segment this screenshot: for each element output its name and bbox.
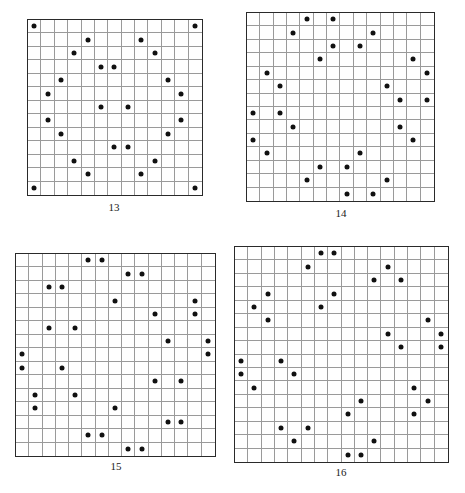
grid-cell <box>149 267 162 280</box>
grid-cell <box>327 94 340 107</box>
grid-cell <box>28 141 41 154</box>
grid-cell <box>314 94 327 107</box>
grid-cell <box>327 134 340 147</box>
grid-cell <box>96 402 109 415</box>
grid-cell <box>288 301 301 314</box>
grid-cell <box>162 47 175 60</box>
grid-cell <box>381 13 394 26</box>
grid-cell <box>381 134 394 147</box>
grid-cell <box>69 443 82 456</box>
grid-cell <box>368 355 381 368</box>
grid-cell <box>247 147 260 160</box>
grid-cell <box>41 47 54 60</box>
grid-cell <box>188 308 201 321</box>
grid-cell <box>381 40 394 53</box>
grid-cell <box>189 168 202 181</box>
grid-cell <box>122 281 135 294</box>
dot-marker <box>319 304 324 309</box>
grid-cell <box>342 435 355 448</box>
grid-cell <box>300 26 313 39</box>
grid-cell <box>82 182 95 195</box>
grid-cell <box>247 67 260 80</box>
grid-cell <box>287 161 300 174</box>
dot-marker <box>72 51 77 56</box>
grid-cell <box>275 301 288 314</box>
grid-cell <box>95 47 108 60</box>
grid-cell <box>175 429 188 442</box>
grid-cell <box>162 33 175 46</box>
grid-cell <box>235 260 248 273</box>
grid-cell <box>354 120 367 133</box>
grid-cell <box>342 301 355 314</box>
grid-cell <box>328 381 341 394</box>
grid-cell <box>314 53 327 66</box>
grid-cell <box>135 348 148 361</box>
grid-cell <box>68 168 81 181</box>
grid-cell <box>381 80 394 93</box>
grid-cell <box>300 67 313 80</box>
grid-cell <box>95 33 108 46</box>
grid-cell <box>122 402 135 415</box>
grid-cell <box>300 80 313 93</box>
grid-cell <box>135 335 148 348</box>
dot-marker <box>264 70 269 75</box>
grid-cell <box>109 254 122 267</box>
grid-cell <box>162 375 175 388</box>
grid-cell <box>202 362 215 375</box>
grid-cell <box>202 281 215 294</box>
grid-cell <box>260 120 273 133</box>
grid-cell <box>408 422 421 435</box>
grid-cell <box>43 429 56 442</box>
grid-cell <box>354 80 367 93</box>
grid-cell <box>108 128 121 141</box>
grid-cell <box>188 429 201 442</box>
grid-cell <box>28 128 41 141</box>
grid-cell <box>82 33 95 46</box>
grid-cell <box>435 301 448 314</box>
grid-cell <box>29 362 42 375</box>
dot-marker <box>58 131 63 136</box>
grid-cell <box>421 147 434 160</box>
grid-cell <box>202 429 215 442</box>
grid-cell <box>248 381 261 394</box>
grid-cell <box>122 308 135 321</box>
grid-cell <box>56 429 69 442</box>
grid-cell <box>122 321 135 334</box>
dot-marker <box>264 151 269 156</box>
grid-cell <box>135 294 148 307</box>
dot-marker <box>384 84 389 89</box>
grid-cell <box>247 94 260 107</box>
grid-cell <box>314 107 327 120</box>
grid-cell <box>248 355 261 368</box>
grid-cell <box>122 267 135 280</box>
grid-cell <box>235 449 248 462</box>
grid-cell <box>248 449 261 462</box>
grid-cell <box>275 328 288 341</box>
dot-marker <box>279 425 284 430</box>
dot-marker <box>59 285 64 290</box>
grid-cell <box>109 308 122 321</box>
grid-cell <box>162 87 175 100</box>
grid-cell <box>248 341 261 354</box>
grid-cell <box>288 260 301 273</box>
grid-cell <box>421 161 434 174</box>
grid-cell <box>408 341 421 354</box>
grid-cell <box>355 314 368 327</box>
grid-cell <box>381 449 394 462</box>
grid-cell <box>68 60 81 73</box>
grid-cell <box>82 101 95 114</box>
grid-cell <box>435 314 448 327</box>
dot-marker <box>372 278 377 283</box>
grid-cell <box>96 267 109 280</box>
grid-cell <box>315 328 328 341</box>
grid-cell <box>395 314 408 327</box>
grid-cell <box>175 267 188 280</box>
dot-marker <box>239 358 244 363</box>
grid-cell <box>29 281 42 294</box>
grid-cell <box>315 408 328 421</box>
grid-cell <box>367 107 380 120</box>
grid-cell <box>260 161 273 174</box>
grid-cell <box>367 120 380 133</box>
grid-cell <box>421 301 434 314</box>
grid-cell <box>43 281 56 294</box>
